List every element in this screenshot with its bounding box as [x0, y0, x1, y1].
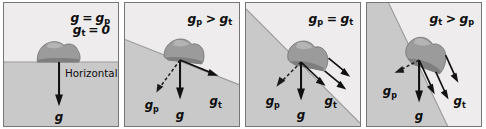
panel-gentle-slope: gp>gt g gt gp [124, 2, 240, 127]
label-g: g [297, 108, 306, 122]
panel-steep-slope: gt>gp g gt [366, 2, 482, 127]
equation-gt-equals-zero: gt=0 [73, 22, 111, 38]
equation-gp-equals-gt: gp=gt [309, 12, 354, 28]
label-g: g [176, 108, 185, 122]
label-g: g [55, 110, 64, 124]
gravity-components-figure: g=gp gt=0 Horizontal g [0, 0, 486, 129]
panel-horizontal-slope: g=gp gt=0 Horizontal g [3, 2, 119, 127]
label-horizontal: Horizontal [65, 67, 118, 79]
equation-gt-greater-gp: gt>gp [430, 12, 475, 28]
label-g: g [415, 109, 424, 123]
panel-45-degree-slope: gp=gt g gt [245, 2, 361, 127]
equation-gp-greater-gt: gp>gt [188, 12, 233, 28]
